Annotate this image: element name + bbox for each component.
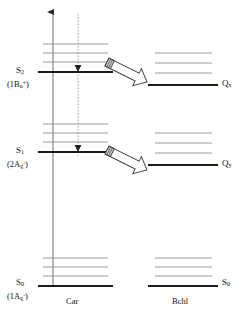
energy-level-diagram: S2 (1Bu+) S1 (2Ag-) S0 (1Ag-) Qx Qy S0 C… (0, 0, 239, 316)
diagram-canvas (0, 0, 239, 316)
bchl-electronic-levels (148, 85, 218, 286)
level-label-s0: S0 (16, 278, 24, 287)
level-term-s2: (1Bu+) (7, 80, 29, 90)
car-electronic-levels (38, 72, 113, 286)
column-label-car: Car (66, 297, 78, 306)
level-term-s0: (1Ag-) (7, 292, 28, 302)
level-label-s2: S2 (16, 66, 24, 75)
internal-conversion-path (75, 14, 82, 156)
level-label-qy: Qy (222, 159, 232, 168)
level-label-qx: Qx (222, 79, 232, 88)
level-label-s1: S1 (16, 146, 24, 155)
level-term-s1: (2Ag-) (7, 160, 28, 170)
column-label-bchl: Bchl (172, 297, 188, 306)
level-label-bchl-s0: S0 (222, 278, 230, 287)
